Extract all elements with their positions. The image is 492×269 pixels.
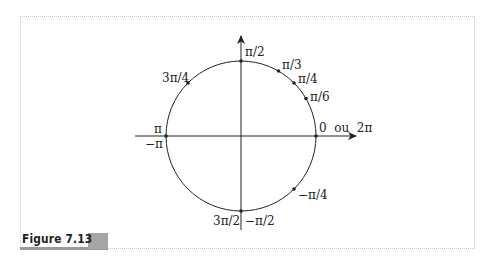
point-pi-over-6: [304, 97, 308, 101]
label-minus-pi: −π: [145, 137, 163, 151]
unit-circle-diagram: π/2 π/3 π/4 π/6 0 ou 2π 3π/4 π −π −π/4 3…: [0, 0, 492, 269]
label-pi-over-2: π/2: [245, 45, 265, 59]
label-minus-pi-over-4: −π/4: [298, 188, 328, 202]
point-pi: [164, 134, 168, 138]
label-pi-over-4: π/4: [298, 72, 318, 86]
label-pi-over-3: π/3: [282, 58, 302, 72]
label-pi-over-6: π/6: [310, 90, 330, 104]
label-minus-pi-over-2: −π/2: [245, 214, 275, 228]
label-3pi-over-2: 3π/2: [213, 214, 240, 228]
point-3pi-over-2: [239, 209, 243, 213]
point-minus-pi-over-4: [292, 187, 296, 191]
point-pi-over-2: [239, 59, 243, 63]
label-zero-or-2pi: 0 ou 2π: [319, 121, 372, 135]
point-pi-over-3: [277, 69, 281, 73]
label-pi: π: [154, 122, 162, 136]
point-zero: [314, 134, 318, 138]
caption-text: Figure 7.13: [22, 231, 92, 246]
point-pi-over-4: [292, 81, 296, 85]
label-3pi-over-4: 3π/4: [162, 71, 190, 85]
